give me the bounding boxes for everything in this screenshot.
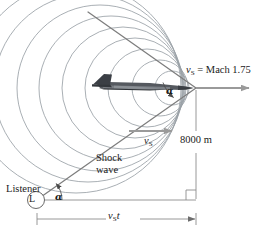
- right-angle-marker: [186, 190, 196, 200]
- aircraft-tailplane: [92, 84, 112, 87]
- wavefront-circle: [0, 0, 182, 182]
- shock-wave-figure: vS = Mach 1.75 8000 m Shock wave Listene…: [0, 0, 256, 239]
- angle-alpha-apex-label: α: [166, 86, 173, 96]
- shock-cone-lower-line: [38, 88, 196, 199]
- distance-time-symbol: t: [117, 210, 120, 221]
- wavefront-circle: [0, 0, 181, 193]
- velocity-equals-value: = Mach 1.75: [195, 64, 251, 75]
- aircraft-tail-fin: [93, 74, 112, 85]
- shock-wave-line-1: Shock: [96, 152, 122, 164]
- altitude-label: 8000 m: [180, 134, 212, 145]
- velocity-mach-label: vS = Mach 1.75: [186, 64, 251, 77]
- angle-alpha-listener-label: α: [55, 192, 62, 202]
- wavefront-circles: [0, 0, 189, 193]
- velocity-mid-label: vS: [144, 135, 153, 148]
- listener-label: Listener: [6, 183, 40, 194]
- figure-canvas: [0, 0, 256, 239]
- shock-wave-label: Shock wave: [96, 152, 122, 177]
- distance-label: vSt: [108, 210, 120, 223]
- velocity-mid-subscript: S: [149, 140, 153, 148]
- listener-marker-label: L: [29, 194, 35, 205]
- shock-wave-line-2: wave: [96, 164, 122, 176]
